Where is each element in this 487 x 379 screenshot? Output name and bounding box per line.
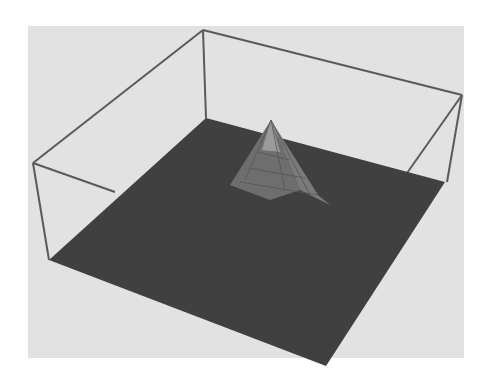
surface-plot-figure — [0, 0, 487, 379]
